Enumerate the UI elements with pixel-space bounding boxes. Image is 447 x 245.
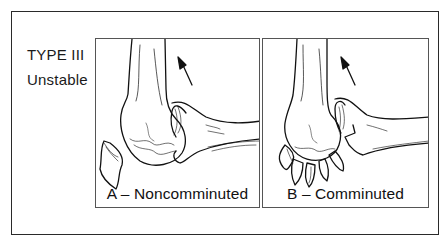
panel-a-caption: A – Noncomminuted bbox=[96, 185, 259, 203]
panel-b-caption: B – Comminuted bbox=[263, 185, 428, 203]
elbow-comminuted-illustration bbox=[263, 39, 429, 208]
type-label: TYPE III bbox=[27, 46, 84, 63]
elbow-noncomminuted-illustration bbox=[96, 39, 260, 208]
panel-noncomminuted: A – Noncomminuted bbox=[95, 38, 260, 208]
panel-comminuted: B – Comminuted bbox=[262, 38, 429, 208]
stability-label: Unstable bbox=[27, 71, 88, 88]
